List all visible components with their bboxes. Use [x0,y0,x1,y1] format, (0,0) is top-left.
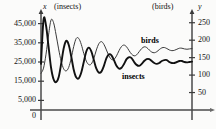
x-axis-arrow [210,108,215,112]
right-tick-label: 150 [198,54,210,62]
right-tick-label: 250 [198,19,210,27]
left-tick-label: 25,000 [0,58,36,66]
birds-series-annotation: birds [141,37,159,45]
right-axis-symbol: y [198,3,202,11]
left-axis-symbol: x [43,3,47,11]
left-tick-label: 45,000 [0,20,36,28]
left-tick-label: 15,000 [0,77,36,85]
left-tick-label: 5,000 [0,96,36,104]
predator-prey-chart: x (insects) (birds) y 0 birds insects 45… [0,0,216,129]
left-axis-unit-label: (insects) [54,3,81,11]
right-tick-label: 50 [198,89,206,97]
origin-label: 0 [32,112,36,120]
right-axis-unit-label: (birds) [152,3,173,11]
insects-series-annotation: insects [122,73,145,81]
right-tick-label: 100 [198,71,210,79]
left-tick-label: 35,000 [0,39,36,47]
right-axis-arrow [190,9,195,14]
right-tick-label: 200 [198,36,210,44]
axes-group [30,9,215,120]
